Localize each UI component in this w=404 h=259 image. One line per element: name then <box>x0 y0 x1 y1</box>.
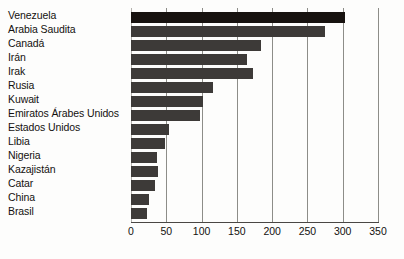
category-label: Irak <box>0 66 126 77</box>
bar <box>131 54 247 65</box>
bar <box>131 12 345 23</box>
gridline-250 <box>307 8 308 222</box>
bar <box>131 26 325 37</box>
category-label: Kazajistán <box>0 164 126 175</box>
bar <box>131 166 158 177</box>
x-tick-label: 150 <box>228 225 246 238</box>
bar <box>131 208 147 219</box>
bar <box>131 138 165 149</box>
category-label: Nigeria <box>0 150 126 161</box>
bar <box>131 82 213 93</box>
x-tick-label: 50 <box>160 225 172 238</box>
category-label: Libia <box>0 136 126 147</box>
gridline-300 <box>343 8 344 222</box>
bar <box>131 194 149 205</box>
bar <box>131 180 155 191</box>
category-axis: VenezuelaArabia SauditaCanadáIránIrakRus… <box>0 10 126 222</box>
category-label: Arabia Saudita <box>0 24 126 35</box>
x-tick-label: 250 <box>299 225 317 238</box>
category-label: Estados Unidos <box>0 122 126 133</box>
bar-chart-figure: VenezuelaArabia SauditaCanadáIránIrakRus… <box>0 0 404 259</box>
category-label: Brasil <box>0 206 126 217</box>
gridline-350 <box>378 8 379 222</box>
value-axis: 050100150200250300350 <box>0 225 404 243</box>
bar <box>131 124 169 135</box>
category-label: Catar <box>0 178 126 189</box>
x-tick-label: 300 <box>334 225 352 238</box>
x-tick-label: 100 <box>193 225 211 238</box>
x-tick-label: 200 <box>263 225 281 238</box>
bar <box>131 110 200 121</box>
plot-area <box>131 8 378 222</box>
category-label: Kuwait <box>0 94 126 105</box>
category-label: Canadá <box>0 38 126 49</box>
bar <box>131 152 157 163</box>
value-axis-line <box>131 222 379 223</box>
category-label: Rusia <box>0 80 126 91</box>
x-tick-label: 350 <box>369 225 387 238</box>
gridline-200 <box>272 8 273 222</box>
category-label: Venezuela <box>0 10 126 21</box>
bar <box>131 40 261 51</box>
x-tick-label: 0 <box>128 225 134 238</box>
category-label: Emiratos Árabes Unidos <box>0 108 126 119</box>
category-label: Irán <box>0 52 126 63</box>
category-label: China <box>0 192 126 203</box>
bar <box>131 96 203 107</box>
bar <box>131 68 253 79</box>
